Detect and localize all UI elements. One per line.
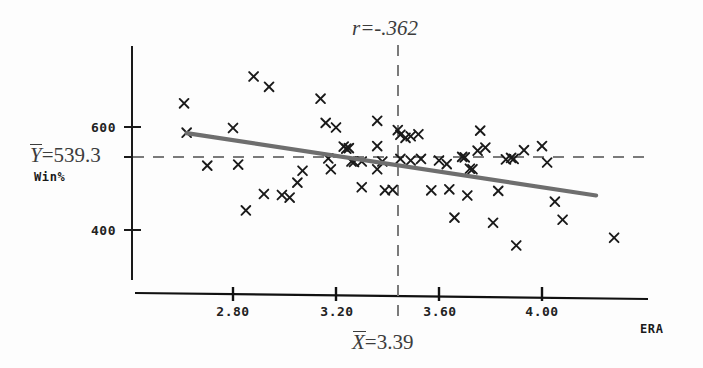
data-point <box>489 218 498 227</box>
x-tick-label-280: 2.80 <box>216 304 249 319</box>
scatter-plot-figure: 600 400 2.80 3.20 3.60 4.00 Y=539.3 Win%… <box>0 0 703 368</box>
correlation-label-text: r=-.362 <box>352 16 418 41</box>
data-point <box>450 213 459 222</box>
regression-line <box>187 133 596 195</box>
data-point <box>610 233 619 242</box>
data-point <box>326 165 335 174</box>
data-point <box>321 118 330 127</box>
data-point <box>265 82 274 91</box>
x-axis-spine <box>135 293 648 299</box>
data-point <box>298 166 307 175</box>
data-point <box>234 160 243 169</box>
data-point <box>476 126 485 135</box>
correlation-annotation: r=-.362 <box>352 16 418 41</box>
data-point <box>427 186 436 195</box>
data-point <box>180 99 189 108</box>
data-point <box>388 185 397 194</box>
data-point <box>293 178 302 187</box>
y-mean-variable: Y <box>30 143 42 168</box>
data-point <box>285 193 294 202</box>
data-point <box>481 143 490 152</box>
data-point <box>373 142 382 151</box>
data-point <box>316 94 325 103</box>
y-tick-label-600: 600 <box>74 120 116 135</box>
data-point <box>463 191 472 200</box>
x-tick-label-400: 4.00 <box>525 304 558 319</box>
data-point <box>249 72 258 81</box>
data-point-markers <box>180 72 619 250</box>
data-point <box>406 156 415 165</box>
data-point <box>241 206 250 215</box>
y-axis-label: Win% <box>34 170 65 184</box>
x-mean-annotation: X=3.39 <box>352 330 413 355</box>
data-point <box>417 155 426 164</box>
data-point <box>203 161 212 170</box>
data-point <box>229 124 238 133</box>
data-point <box>396 155 405 164</box>
data-point <box>494 186 503 195</box>
x-tick-label-320: 3.20 <box>320 304 353 319</box>
x-axis-label: ERA <box>640 322 663 336</box>
x-mean-value: =3.39 <box>365 330 414 354</box>
data-point <box>550 197 559 206</box>
data-point <box>538 142 547 151</box>
data-point <box>558 215 567 224</box>
data-point <box>414 130 423 139</box>
y-mean-value: =539.3 <box>42 143 101 167</box>
data-point <box>445 185 454 194</box>
data-point <box>512 241 521 250</box>
data-point <box>260 190 269 199</box>
data-point <box>357 183 366 192</box>
x-tick-label-360: 3.60 <box>423 304 456 319</box>
data-point <box>543 158 552 167</box>
data-point <box>520 146 529 155</box>
data-point <box>373 116 382 125</box>
data-point <box>332 123 341 132</box>
y-tick-label-400: 400 <box>74 223 116 238</box>
data-point <box>473 146 482 155</box>
y-mean-annotation: Y=539.3 <box>30 143 101 168</box>
x-mean-variable: X <box>352 330 365 355</box>
data-point <box>278 191 287 200</box>
